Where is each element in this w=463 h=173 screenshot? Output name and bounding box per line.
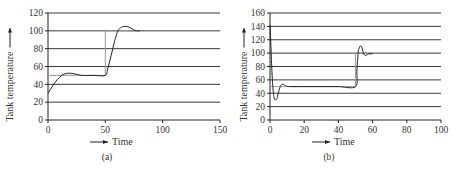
y-tick-label: 80 bbox=[256, 62, 266, 72]
chart-figure: 020406080100120050100150Tank temperature… bbox=[0, 0, 463, 173]
x-tick-label: 100 bbox=[156, 125, 171, 135]
x-axis-label: Time bbox=[112, 136, 133, 147]
x-tick-label: 40 bbox=[334, 125, 344, 135]
y-tick-label: 80 bbox=[34, 44, 44, 54]
y-tick-label: 120 bbox=[29, 8, 44, 18]
x-tick-label: 50 bbox=[101, 125, 111, 135]
x-axis-label: Time bbox=[334, 136, 355, 147]
setpoint-line bbox=[48, 31, 140, 76]
x-tick-label: 60 bbox=[368, 125, 378, 135]
y-tick-label: 60 bbox=[34, 62, 44, 72]
x-tick-label: 0 bbox=[268, 125, 273, 135]
y-tick-label: 60 bbox=[256, 75, 266, 85]
y-tick-label: 100 bbox=[251, 48, 266, 58]
y-tick-label: 40 bbox=[256, 89, 266, 99]
panel-a: 020406080100120050100150Tank temperature… bbox=[4, 8, 227, 163]
y-tick-label: 0 bbox=[260, 115, 265, 125]
panel-label: (a) bbox=[102, 152, 113, 163]
panel-b: 020406080100120140160020406080100Tank te… bbox=[238, 8, 448, 163]
arrow-right-icon bbox=[103, 140, 108, 144]
y-tick-label: 20 bbox=[256, 102, 266, 112]
y-tick-label: 20 bbox=[34, 97, 44, 107]
panel-label: (b) bbox=[323, 152, 334, 163]
y-tick-label: 40 bbox=[34, 80, 44, 90]
y-tick-label: 0 bbox=[38, 115, 43, 125]
x-tick-label: 150 bbox=[213, 125, 228, 135]
y-axis-label: Tank temperature bbox=[238, 51, 249, 122]
y-tick-label: 140 bbox=[251, 22, 266, 32]
arrow-up-icon bbox=[8, 28, 12, 33]
arrow-up-icon bbox=[242, 28, 246, 33]
y-axis-label: Tank temperature bbox=[4, 51, 15, 122]
y-tick-label: 160 bbox=[251, 8, 266, 18]
tank-temperature-curve bbox=[48, 26, 140, 93]
x-tick-label: 100 bbox=[434, 125, 449, 135]
x-tick-label: 80 bbox=[402, 125, 412, 135]
y-tick-label: 120 bbox=[251, 35, 266, 45]
x-tick-label: 0 bbox=[46, 125, 51, 135]
x-tick-label: 20 bbox=[299, 125, 309, 135]
y-tick-label: 100 bbox=[29, 26, 44, 36]
tank-temperature-curve bbox=[270, 25, 373, 100]
arrow-right-icon bbox=[325, 140, 330, 144]
